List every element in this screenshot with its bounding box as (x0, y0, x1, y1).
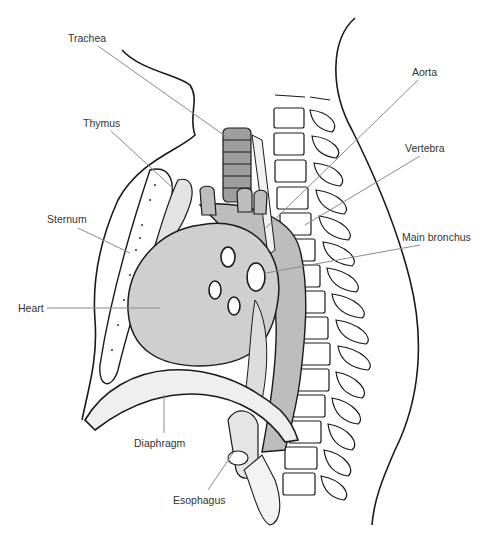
label-heart: Heart (18, 302, 44, 314)
label-thymus: Thymus (83, 117, 120, 129)
label-vertebra: Vertebra (405, 142, 445, 154)
thorax-illustration (0, 0, 492, 546)
label-main-bronchus: Main bronchus (402, 231, 471, 243)
stomach-fold (244, 455, 280, 525)
label-trachea: Trachea (68, 32, 106, 44)
anatomy-diagram: Trachea Aorta Thymus Vertebra Sternum Ma… (0, 0, 492, 546)
label-esophagus: Esophagus (173, 494, 226, 506)
label-diaphragm: Diaphragm (134, 437, 185, 449)
esophagus-lumen (228, 451, 248, 465)
label-aorta: Aorta (412, 66, 437, 78)
label-sternum: Sternum (47, 213, 87, 225)
